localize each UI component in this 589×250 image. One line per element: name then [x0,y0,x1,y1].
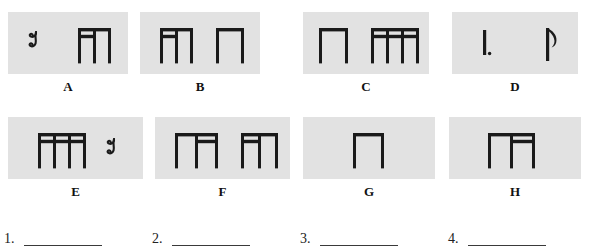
answer-item: 2. [152,222,250,246]
answer-blank-line[interactable] [468,231,546,246]
beamed-note-group [239,133,280,172]
rhythm-box-b[interactable] [140,12,260,74]
rhythm-box-e[interactable] [8,117,143,179]
answer-blank-line[interactable] [172,231,250,246]
rhythm-box-label: B [140,79,260,95]
rhythm-box-label: C [303,79,429,95]
answer-item: 1. [4,222,102,246]
answer-blank-line[interactable] [24,231,102,246]
rhythm-box-cell: A [8,12,128,98]
answer-number: 3. [300,232,311,246]
answer-line-row: 1.2.3.4. [0,222,589,250]
beamed-note-group [158,28,195,67]
rhythm-box-h[interactable] [449,117,581,179]
beamed-note-group [173,133,220,172]
eighth-rest [104,137,118,167]
beamed-note-group [369,28,421,67]
beamed-note-group [214,28,246,67]
rhythm-box-cell: B [140,12,260,98]
beamed-note-group [76,28,113,67]
beamed-note-group [351,133,386,172]
rhythm-box-cell: C [303,12,429,98]
answer-item: 3. [300,222,398,246]
rhythm-box-label: D [452,79,578,95]
flagged-eighth-note [544,28,562,64]
rhythm-box-cell: F [155,117,290,203]
rhythm-box-label: F [155,184,290,200]
rhythm-box-f[interactable] [155,117,290,179]
beamed-note-group [317,28,350,67]
rhythm-box-g[interactable] [303,117,435,179]
beamed-note-group [486,133,537,172]
rhythm-box-c[interactable] [303,12,429,74]
rhythm-box-cell: D [452,12,578,98]
eighth-rest [26,30,40,60]
rhythm-box-label: A [8,79,128,95]
answer-item: 4. [448,222,546,246]
rhythm-box-cell: E [8,117,143,203]
rhythm-box-cell: G [303,117,435,203]
rhythm-box-label: E [8,184,143,200]
beamed-note-group [36,133,88,172]
dotted-stem-note [482,30,494,62]
answer-number: 2. [152,232,163,246]
rhythm-box-a[interactable] [8,12,128,74]
rhythm-box-d[interactable] [452,12,578,74]
answer-blank-line[interactable] [320,231,398,246]
worksheet-sheet: ABCDEFGH 1.2.3.4. [0,0,589,250]
answer-number: 1. [4,232,15,246]
rhythm-box-cell: H [449,117,581,203]
rhythm-box-label: G [303,184,435,200]
answer-number: 4. [448,232,459,246]
rhythm-box-label: H [449,184,581,200]
